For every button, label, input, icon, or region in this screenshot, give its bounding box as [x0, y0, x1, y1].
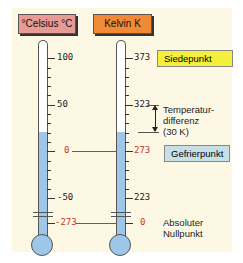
c-0: 0	[64, 145, 69, 155]
kelvin-header: Kelvin K	[93, 14, 152, 34]
kelvin-bulb	[109, 234, 131, 256]
k-273: 273	[134, 145, 150, 155]
absolute-zero-label: Absoluter Nullpunkt	[163, 217, 203, 239]
c-m273: -273	[55, 217, 77, 227]
k-223: 223	[134, 192, 150, 202]
celsius-header: °Celsius °C	[18, 14, 76, 34]
freezing-point-box: Gefrierpunkt	[164, 145, 230, 162]
c-100: 100	[57, 52, 73, 62]
k-0: 0	[140, 217, 145, 227]
c-50: 50	[57, 99, 68, 109]
k-323: 323	[134, 99, 150, 109]
c-m50: -50	[57, 192, 73, 202]
k-373: 373	[134, 52, 150, 62]
temp-diff-label: Temperatur- differenz (30 K)	[163, 104, 214, 137]
celsius-bulb	[31, 234, 53, 256]
boiling-point-box: Siedepunkt	[157, 50, 233, 67]
